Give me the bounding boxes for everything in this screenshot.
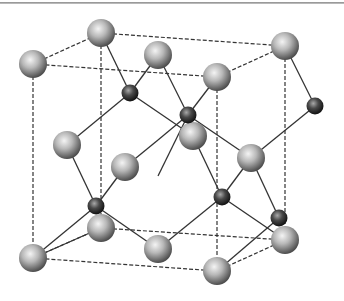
crystal-structure-diagram [0,0,344,301]
large-atom [19,50,47,78]
small-atom [271,210,288,227]
large-atom [271,32,299,60]
large-atom [203,63,231,91]
large-atom [19,244,47,272]
large-atom [203,257,231,285]
large-atom [237,144,265,172]
small-atom [214,189,231,206]
large-atom [179,122,207,150]
large-atom [144,235,172,263]
large-atom [87,19,115,47]
small-atom [88,198,105,215]
small-atom [122,85,139,102]
large-atom [87,214,115,242]
small-atom [180,107,197,124]
large-atom [111,153,139,181]
large-atom [144,41,172,69]
small-atom [307,98,324,115]
large-atom [271,226,299,254]
large-atom [53,131,81,159]
